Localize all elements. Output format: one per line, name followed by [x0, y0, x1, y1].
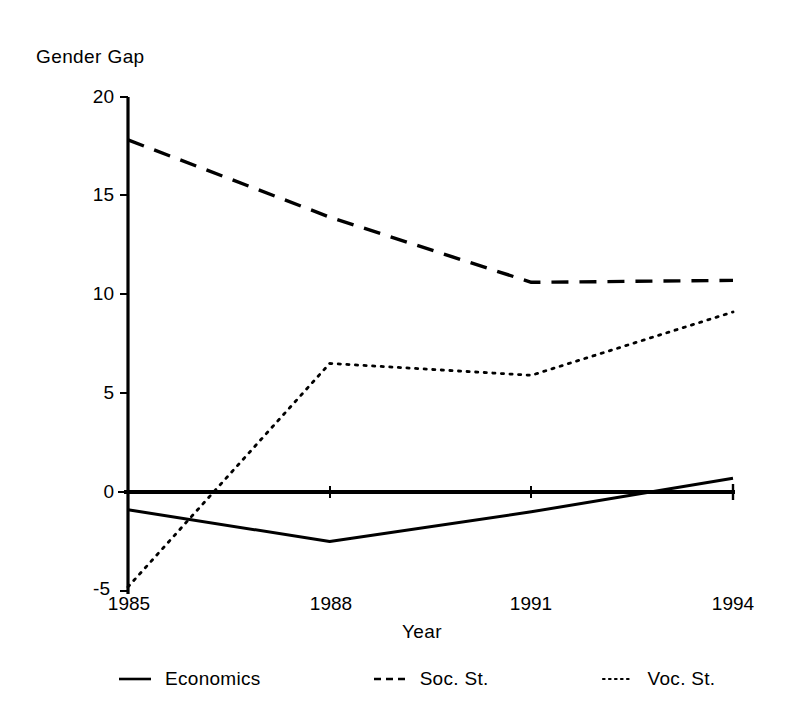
y-tick-label-5: 5 [70, 382, 114, 404]
series-line-economics [128, 478, 733, 541]
y-tick-label-20: 20 [70, 86, 114, 108]
legend-label-soc-st: Soc. St. [420, 668, 489, 690]
legend-swatch-dotted-line-icon [601, 673, 635, 685]
series-line-soc-st [128, 140, 733, 282]
y-tick-label-10: 10 [70, 283, 114, 305]
y-tick-label-15: 15 [70, 184, 114, 206]
x-tick-label-1994: 1994 [694, 593, 772, 615]
x-axis-title: Year [402, 621, 442, 643]
series-line-voc-st [128, 312, 733, 587]
legend-swatch-solid-line-icon [118, 673, 152, 685]
legend-label-economics: Economics [165, 668, 261, 690]
x-tick-label-1985: 1985 [90, 593, 168, 615]
x-tick-label-1988: 1988 [292, 593, 370, 615]
legend-entry-economics: Economics [118, 666, 261, 692]
chart-legend: Economics Soc. St. Voc. St. [118, 662, 778, 696]
y-tick-label-0: 0 [70, 481, 114, 503]
legend-entry-voc-st: Voc. St. [601, 666, 716, 692]
legend-swatch-dashed-line-icon [373, 673, 407, 685]
chart-container: Gender Gap 20 15 10 5 0 -5 [0, 0, 803, 721]
x-tick-label-1991: 1991 [492, 593, 570, 615]
legend-entry-soc-st: Soc. St. [373, 666, 489, 692]
legend-label-voc-st: Voc. St. [648, 668, 716, 690]
